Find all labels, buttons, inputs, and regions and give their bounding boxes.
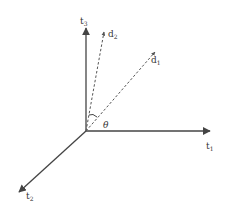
angle-theta-label: θ bbox=[103, 120, 109, 130]
vector-d1: d1 bbox=[86, 52, 161, 131]
vector-d1-label: d1 bbox=[151, 55, 161, 66]
vector-d2-label: d2 bbox=[108, 29, 118, 40]
vector-space-diagram: t3 t1 t2 d2 d1 θ bbox=[0, 0, 226, 211]
axis-t1-label: t1 bbox=[206, 141, 213, 152]
axis-t3-label: t3 bbox=[80, 16, 88, 27]
axis-t1: t1 bbox=[86, 131, 213, 152]
vector-d2: d2 bbox=[86, 29, 118, 131]
axis-t2-label: t2 bbox=[26, 191, 34, 202]
axis-t2: t2 bbox=[19, 131, 86, 202]
angle-arc bbox=[89, 114, 97, 117]
axis-t3: t3 bbox=[80, 16, 88, 131]
